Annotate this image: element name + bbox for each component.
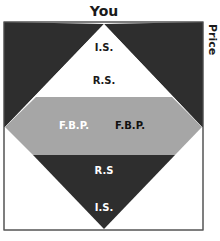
price-axis-label: Price — [205, 24, 219, 55]
upper-rs-label: R.S. — [74, 75, 134, 87]
price-diamond-diagram: You Price I.S. R.S. F.B.P. F.B.P. R.S I.… — [0, 0, 220, 241]
lower-rs-label: R.S — [74, 165, 134, 177]
upper-is-label: I.S. — [74, 42, 134, 54]
fbp-left-label: F.B.P. — [44, 120, 104, 132]
lower-is-label: I.S. — [74, 202, 134, 214]
fbp-right-label: F.B.P. — [100, 120, 160, 132]
